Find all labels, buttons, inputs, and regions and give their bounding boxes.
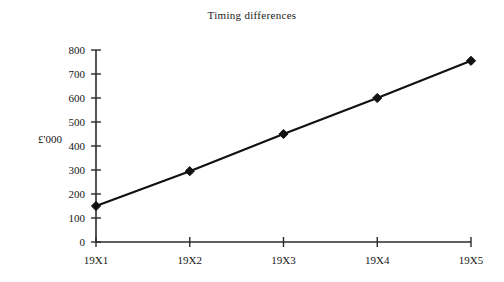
x-tick-label-19x2: 19X2	[178, 254, 202, 266]
y-axis-ticks: 0100200300400500600700800	[69, 44, 102, 248]
y-tick-label: 800	[69, 44, 86, 56]
data-point-19x2	[185, 167, 194, 176]
y-axis-label: £'000	[38, 133, 62, 145]
data-point-19x3	[279, 129, 288, 138]
y-tick-label: 300	[69, 164, 86, 176]
line-chart: Timing differences £'000 010020030040050…	[0, 0, 504, 282]
x-tick-label-19x3: 19X3	[271, 254, 296, 266]
data-point-19x1	[91, 201, 100, 210]
x-tick-label-19x1: 19X1	[84, 254, 108, 266]
y-tick-label: 200	[69, 188, 86, 200]
y-tick-label: 400	[69, 140, 86, 152]
y-tick-label: 500	[69, 116, 86, 128]
chart-canvas: Timing differences £'000 010020030040050…	[0, 0, 504, 282]
y-tick-label: 600	[69, 92, 86, 104]
y-tick-label: 700	[69, 68, 86, 80]
chart-title: Timing differences	[208, 9, 297, 21]
data-point-19x5	[466, 56, 475, 65]
x-tick-label-19x4: 19X4	[365, 254, 390, 266]
x-tick-label-19x5: 19X5	[459, 254, 484, 266]
y-tick-label: 0	[80, 236, 86, 248]
y-tick-label: 100	[69, 212, 86, 224]
data-point-19x4	[373, 93, 382, 102]
